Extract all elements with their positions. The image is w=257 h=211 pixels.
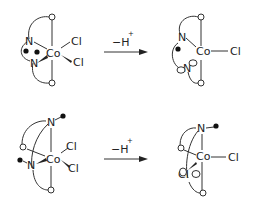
- nitrogen-label-1: N: [47, 116, 55, 129]
- nitrogen-label-1: N: [197, 122, 205, 135]
- proton-dot: [213, 123, 218, 128]
- cobalt-label: Co: [46, 47, 61, 60]
- cobalt-label: Co: [46, 153, 61, 166]
- chloride-label-2: Cl: [73, 56, 84, 69]
- nitrogen-label-2: N: [30, 57, 38, 70]
- cobalt-label: Co: [196, 45, 211, 58]
- top-reaction-arrow: −H +: [104, 30, 148, 55]
- bottom-reactant-complex: N N Co Cl Cl: [17, 113, 78, 193]
- oxygen-atom-top: [198, 14, 204, 20]
- oxygen-atom-bottom: [198, 80, 204, 86]
- lone-pair-lobe: [180, 168, 187, 176]
- lone-pair-lobe: [189, 60, 197, 66]
- reagent-label: −H: [111, 143, 129, 156]
- chloride-label-1: Cl: [71, 35, 82, 48]
- top-product-complex: N N Co Cl: [172, 14, 240, 86]
- chloride-label: Cl: [230, 45, 241, 58]
- chloride-label: Cl: [228, 151, 239, 164]
- proton-dot: [60, 113, 65, 118]
- oxygen-atom-top: [49, 14, 55, 20]
- lone-pair-lobe: [177, 67, 185, 73]
- bottom-reaction-arrow: −H +: [104, 137, 148, 162]
- proton-dot: [23, 48, 28, 53]
- nitrogen-label-1: N: [178, 31, 186, 44]
- reaction-scheme: N N Co Cl Cl −H + N N Co: [0, 0, 257, 211]
- cobalt-label: Co: [196, 150, 211, 163]
- proton-dot: [17, 157, 22, 162]
- chloride-label-1: Cl: [66, 140, 77, 153]
- nitrogen-label-1: N: [25, 35, 33, 48]
- top-reactant-complex: N N Co Cl Cl: [21, 14, 83, 86]
- reagent-superscript: +: [127, 137, 133, 145]
- proton-dot: [175, 46, 180, 51]
- oxygen-atom-left: [178, 145, 184, 151]
- bottom-product-complex: N Co Cl Cl: [178, 122, 239, 196]
- oxygen-atom-left: [20, 144, 26, 150]
- reagent-superscript: +: [128, 30, 134, 38]
- reagent-label: −H: [112, 36, 130, 49]
- oxygen-atom-bottom: [49, 80, 55, 86]
- lone-pair-lobe: [192, 171, 200, 178]
- proton-dot: [34, 49, 39, 54]
- nitrogen-label-2: N: [27, 159, 35, 172]
- oxygen-atom-bottom: [200, 190, 206, 196]
- chloride-label-2: Cl: [68, 162, 79, 175]
- oxygen-atom-bottom: [48, 187, 54, 193]
